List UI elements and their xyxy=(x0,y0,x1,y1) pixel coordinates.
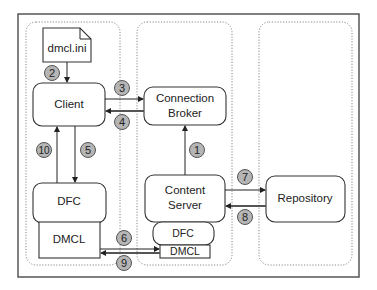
server-dfc-label: DFC xyxy=(172,227,194,239)
client-node: Client xyxy=(33,83,105,126)
content-server-label-line2: Server xyxy=(168,199,202,211)
server-dmcl-label: DMCL xyxy=(170,245,200,257)
repository-tier-panel xyxy=(259,22,352,265)
svg-text:4: 4 xyxy=(119,116,125,128)
content-server-label-line1: Content xyxy=(165,184,206,196)
architecture-diagram: dmcl.ini Client DFC DMCL Connection Brok… xyxy=(0,0,377,290)
svg-text:7: 7 xyxy=(242,171,248,183)
svg-text:5: 5 xyxy=(85,144,91,156)
dmcl-ini-label: dmcl.ini xyxy=(48,42,87,54)
connection-broker-node: Connection Broker xyxy=(144,87,226,125)
step-badge-2: 2 xyxy=(45,66,60,81)
step-badge-9: 9 xyxy=(117,256,132,271)
step-badge-6: 6 xyxy=(117,231,132,246)
step-badge-1: 1 xyxy=(190,143,205,158)
repository-label: Repository xyxy=(278,192,333,204)
svg-text:2: 2 xyxy=(49,67,55,79)
content-server-node: Content Server xyxy=(145,175,225,222)
connection-broker-label-line2: Broker xyxy=(168,107,202,119)
client-dmcl-label: DMCL xyxy=(53,233,86,245)
svg-text:8: 8 xyxy=(242,211,248,223)
step-badge-5: 5 xyxy=(81,143,96,158)
client-dfc-node: DFC xyxy=(33,183,106,223)
step-badge-7: 7 xyxy=(238,170,253,185)
client-dmcl-node: DMCL xyxy=(39,222,100,258)
connection-broker-label-line1: Connection xyxy=(156,92,214,104)
svg-text:9: 9 xyxy=(121,257,127,269)
step-badge-3: 3 xyxy=(115,81,130,96)
server-dmcl-node: DMCL xyxy=(160,245,210,258)
client-label: Client xyxy=(54,98,84,110)
dmcl-ini-file: dmcl.ini xyxy=(43,28,91,62)
svg-text:1: 1 xyxy=(194,144,200,156)
server-dfc-node: DFC xyxy=(153,222,214,245)
svg-text:6: 6 xyxy=(121,232,127,244)
svg-text:3: 3 xyxy=(119,82,125,94)
repository-node: Repository xyxy=(266,176,345,222)
step-badge-8: 8 xyxy=(238,210,253,225)
step-badge-4: 4 xyxy=(115,115,130,130)
step-badge-10: 10 xyxy=(37,143,52,158)
client-dfc-label: DFC xyxy=(57,195,81,207)
svg-text:10: 10 xyxy=(38,145,50,156)
